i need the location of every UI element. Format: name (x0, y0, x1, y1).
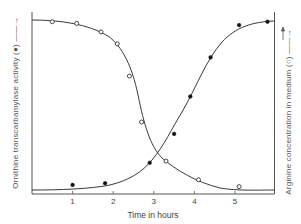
arginine-markers (50, 20, 241, 189)
arginine-data-point (50, 20, 54, 24)
arginine-data-point (127, 74, 131, 78)
otc-data-point (237, 23, 241, 27)
otc-activity-curve (32, 21, 274, 190)
arginine-data-point (197, 178, 201, 182)
arginine-data-point (75, 21, 79, 25)
axes (32, 12, 275, 194)
otc-data-point (266, 20, 270, 24)
arginine-data-point (99, 30, 103, 34)
x-tick-label: 4 (192, 197, 196, 206)
otc-data-point (209, 56, 213, 60)
otc-activity-markers (71, 20, 270, 187)
right-y-axis-label: Arginine concentration in medium (○) ——→ (284, 29, 293, 194)
otc-data-point (189, 95, 193, 99)
x-tick-label: 1 (70, 197, 74, 206)
otc-data-point (103, 181, 107, 185)
x-axis-label: Time in hours (127, 210, 178, 220)
left-y-axis-label: Ornithine transcarbamylase activity (●) … (11, 17, 20, 189)
x-tick-label: 5 (233, 197, 237, 206)
otc-data-point (148, 161, 152, 165)
arginine-data-point (140, 120, 144, 124)
arginine-data-point (115, 42, 119, 46)
arginine-curve (32, 20, 274, 190)
x-tick-label: 2 (111, 197, 115, 206)
otc-data-point (172, 132, 176, 136)
arginine-data-point (237, 185, 241, 189)
x-tick-label: 3 (152, 197, 156, 206)
arginine-data-point (164, 159, 168, 163)
chart-canvas (0, 0, 301, 224)
otc-data-point (71, 183, 75, 187)
